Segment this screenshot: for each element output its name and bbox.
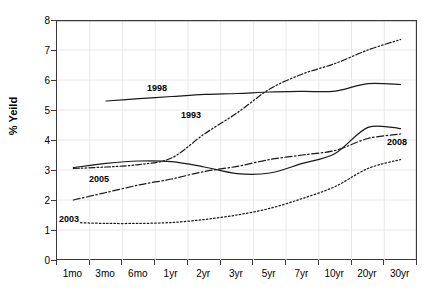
- series-label-1998: 1998: [146, 83, 168, 93]
- series-label-2005: 2005: [88, 174, 110, 184]
- series-label-2003: 2003: [58, 214, 80, 224]
- series-label-1993: 1993: [180, 110, 202, 120]
- series-labels: 19981993200520032008: [0, 0, 436, 297]
- yield-curve-chart: % Yeild 012345678 1mo3mo6mo1yr2yr3yr5yr7…: [0, 0, 436, 297]
- series-label-2008: 2008: [386, 137, 408, 147]
